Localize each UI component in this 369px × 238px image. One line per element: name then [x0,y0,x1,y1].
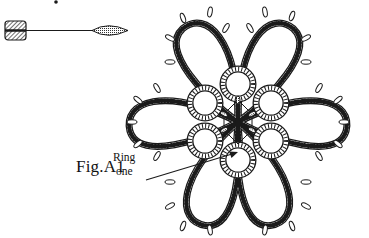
callout-label: Ring one [113,150,135,178]
tatting-diagram: Fig.A1 Ring one [0,0,369,238]
outer-petals [124,19,353,234]
shuttle-icon [5,0,128,40]
callout-line-1: Ring [113,150,135,164]
callout-line-2: one [113,164,135,178]
motif-drawing [0,0,369,238]
